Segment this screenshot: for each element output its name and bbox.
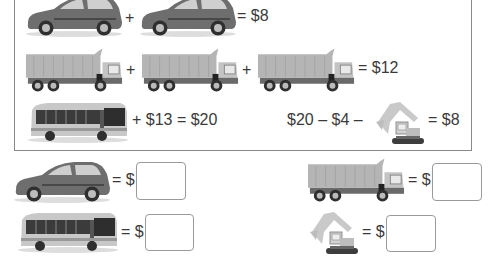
trucks-result: = $12 [358,60,398,76]
plus-sign: + [126,62,135,78]
dump-truck-icon [256,48,356,93]
dump-truck-icon [140,48,240,93]
cars-result: = $8 [237,8,269,24]
excavator-icon [370,100,426,146]
excavator-answer-input[interactable] [386,215,436,252]
car-icon [23,0,125,38]
dump-truck-icon [306,158,406,203]
truck-answer-label: = $ [408,172,431,188]
plus-sign: + [125,10,134,26]
car-answer-label: = $ [112,172,135,188]
car-icon [12,160,112,204]
car-answer-input[interactable] [136,162,186,200]
excavator-equation-prefix: $20 – $4 – [287,112,363,128]
excavator-answer-label: = $ [362,224,385,240]
bus-answer-label: = $ [121,224,144,240]
bus-answer-input[interactable] [145,214,194,251]
car-icon [137,0,239,38]
bus-icon [28,100,128,144]
truck-answer-input[interactable] [432,163,482,201]
plus-sign: + [242,62,251,78]
excavator-result: = $8 [428,112,460,128]
dump-truck-icon [24,48,124,93]
bus-equation: + $13 = $20 [132,112,217,128]
excavator-icon [304,210,360,256]
bus-icon [18,210,118,254]
